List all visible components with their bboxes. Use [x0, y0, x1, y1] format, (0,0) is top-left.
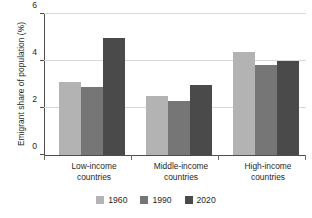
legend-label: 1990 [152, 196, 171, 205]
x-category-label-line-2: countries [131, 172, 231, 183]
bar-2020-middle-income [190, 85, 212, 156]
y-tick-6 [40, 13, 44, 14]
x-axis-line [44, 155, 306, 156]
bar-1990-high-income [255, 65, 277, 155]
y-tick-label-6: 6 [32, 1, 37, 10]
bar-1990-low-income [81, 87, 103, 155]
y-tick-2 [40, 107, 44, 108]
legend-item-2020[interactable]: 2020 [185, 196, 216, 205]
x-tick-2 [218, 155, 219, 160]
plot-area: 6 4 2 0 [44, 14, 306, 155]
legend-item-1960[interactable]: 1960 [96, 196, 127, 205]
bar-group-middle-income [146, 14, 216, 155]
x-category-label-high-income: High-income countries [218, 161, 312, 182]
legend-label: 2020 [197, 196, 216, 205]
y-axis-title: Emigrant share of population (%) [16, 9, 26, 159]
bar-1960-low-income [59, 82, 81, 155]
legend-swatch-icon [140, 196, 148, 204]
legend-item-1990[interactable]: 1990 [140, 196, 171, 205]
legend-swatch-icon [96, 196, 104, 204]
chart-legend: 1960 1990 2020 [0, 196, 312, 205]
x-category-label-middle-income: Middle-income countries [131, 161, 231, 182]
bar-1960-high-income [233, 52, 255, 155]
x-tick-0 [44, 155, 45, 160]
x-category-label-line-1: Middle-income [131, 161, 231, 172]
x-tick-1 [131, 155, 132, 160]
y-tick-label-4: 4 [32, 48, 37, 57]
bar-1990-middle-income [168, 101, 190, 155]
legend-label: 1960 [108, 196, 127, 205]
x-category-label-line-2: countries [44, 172, 144, 183]
y-tick-4 [40, 60, 44, 61]
bar-2020-high-income [277, 61, 299, 155]
x-category-label-line-1: High-income [218, 161, 312, 172]
bar-group-high-income [233, 14, 303, 155]
y-tick-label-0: 0 [32, 142, 37, 151]
bar-chart: Emigrant share of population (%) 6 4 2 0 [0, 0, 312, 218]
x-category-label-line-2: countries [218, 172, 312, 183]
x-tick-3 [305, 155, 306, 160]
x-category-label-low-income: Low-income countries [44, 161, 144, 182]
x-category-label-line-1: Low-income [44, 161, 144, 172]
bar-1960-middle-income [146, 96, 168, 155]
y-tick-label-2: 2 [32, 95, 37, 104]
bar-group-low-income [59, 14, 129, 155]
legend-swatch-icon [185, 196, 193, 204]
bar-2020-low-income [103, 38, 125, 156]
